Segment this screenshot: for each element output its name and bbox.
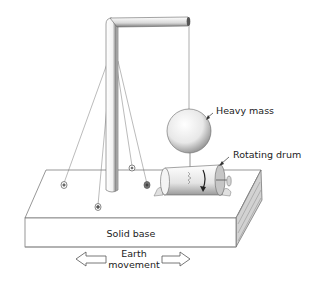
rotating-drum-text: Rotating drum xyxy=(233,149,301,160)
heavy-mass-sphere xyxy=(167,109,211,153)
right-arrow-icon xyxy=(162,252,190,266)
seismograph-diagram: Heavy mass Rotating drum Solid base Eart… xyxy=(0,0,319,290)
support-post xyxy=(106,17,190,192)
rotating-drum-label: Rotating drum xyxy=(219,149,301,166)
heavy-mass-label: Heavy mass xyxy=(206,105,274,120)
solid-base-text: Solid base xyxy=(107,228,156,239)
earth-movement-line1: Earth xyxy=(121,248,146,259)
rotating-drum xyxy=(154,165,231,197)
heavy-mass-text: Heavy mass xyxy=(216,105,274,116)
left-arrow-icon xyxy=(76,252,106,266)
anchor-peg-icon xyxy=(95,204,101,211)
vertical-post xyxy=(106,18,118,192)
earth-movement-indicator: Earth movement xyxy=(76,248,190,270)
anchor-peg-icon xyxy=(144,182,150,189)
earth-movement-line2: movement xyxy=(108,259,160,270)
anchor-peg-icon xyxy=(129,165,135,171)
horizontal-arm xyxy=(110,17,190,27)
anchor-peg-icon xyxy=(61,182,67,189)
